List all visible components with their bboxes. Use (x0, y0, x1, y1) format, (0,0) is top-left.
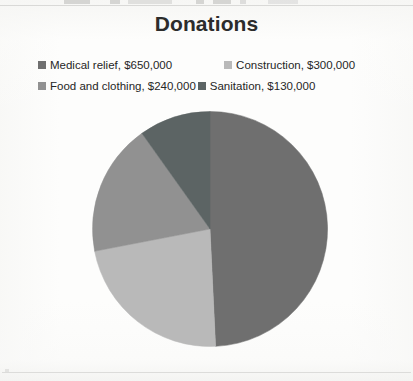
pie-slice-group (92, 111, 327, 346)
pie-plot-area (92, 111, 328, 347)
legend-swatch-sanitation-icon (198, 82, 206, 90)
legend-item-construction[interactable]: Construction, $300,000 (224, 58, 355, 72)
legend-swatch-food-and-clothing-icon (38, 82, 46, 90)
pie-svg (92, 111, 328, 347)
legend-swatch-medical-relief-icon (38, 61, 46, 69)
legend-row: Food and clothing, $240,000 Sanitation, … (30, 75, 385, 96)
legend-item-medical-relief[interactable]: Medical relief, $650,000 (38, 58, 172, 72)
chart-legend: Medical relief, $650,000 Construction, $… (30, 54, 385, 96)
legend-label-food-and-clothing: Food and clothing, $240,000 (50, 79, 196, 93)
legend-row: Medical relief, $650,000 Construction, $… (30, 54, 385, 75)
scanned-page: Donations Medical relief, $650,000 Const… (0, 0, 413, 381)
legend-label-sanitation: Sanitation, $130,000 (210, 79, 316, 93)
chart-title: Donations (0, 11, 413, 37)
legend-label-construction: Construction, $300,000 (236, 58, 355, 72)
legend-item-food-and-clothing[interactable]: Food and clothing, $240,000 (38, 79, 196, 93)
legend-item-sanitation[interactable]: Sanitation, $130,000 (198, 79, 316, 93)
legend-label-medical-relief: Medical relief, $650,000 (50, 58, 172, 72)
page-bottom-rule (2, 372, 411, 373)
pie-slice-medical-relief[interactable] (210, 111, 328, 346)
legend-swatch-construction-icon (224, 61, 232, 69)
pie-chart-figure: Donations Medical relief, $650,000 Const… (0, 0, 413, 381)
